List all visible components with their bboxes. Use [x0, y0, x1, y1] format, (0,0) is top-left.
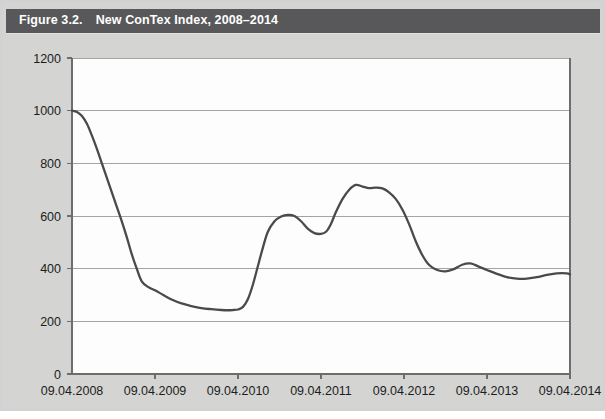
figure-title: Figure 3.2.New ConTex Index, 2008–2014: [19, 13, 278, 27]
x-axis-tick-labels: 09.04.200809.04.200909.04.201009.04.2011…: [41, 384, 602, 398]
y-tick-label: 600: [40, 210, 61, 224]
y-tick-label: 200: [40, 315, 61, 329]
y-tick-label: 400: [40, 262, 61, 276]
x-tick-label: 09.04.2014: [539, 384, 602, 398]
figure-number: Figure 3.2.: [19, 13, 83, 27]
y-tick-marks: [67, 58, 72, 374]
x-tick-marks: [155, 374, 570, 379]
figure-title-label: New ConTex Index, 2008–2014: [96, 13, 278, 27]
x-tick-label: 09.04.2012: [373, 384, 436, 398]
y-tick-label: 0: [54, 368, 61, 382]
x-tick-label: 09.04.2009: [124, 384, 187, 398]
y-tick-label: 1000: [33, 104, 61, 118]
x-tick-label: 09.04.2011: [290, 384, 352, 398]
y-tick-label: 1200: [33, 52, 61, 66]
figure-title-bar: Figure 3.2.New ConTex Index, 2008–2014: [6, 9, 600, 33]
x-tick-label: 09.04.2010: [207, 384, 270, 398]
chart-plot-area: 020040060080010001200 09.04.200809.04.20…: [0, 36, 605, 404]
y-tick-label: 800: [40, 157, 61, 171]
line-chart-svg: 020040060080010001200 09.04.200809.04.20…: [0, 36, 605, 404]
figure-container: Figure 3.2.New ConTex Index, 2008–2014 0…: [0, 0, 605, 419]
x-tick-label: 09.04.2008: [41, 384, 104, 398]
x-tick-label: 09.04.2013: [456, 384, 519, 398]
y-axis-tick-labels: 020040060080010001200: [33, 52, 61, 382]
